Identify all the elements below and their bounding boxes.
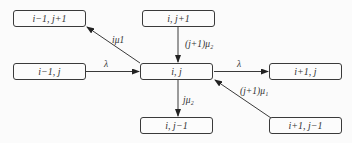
node-i-minus-1-j-plus-1: i−1, j+1: [13, 10, 86, 27]
node-i-j: i, j: [140, 63, 213, 80]
label-jp1-mu2: (j+1)μ₂: [185, 40, 213, 50]
label-j-mu2: jμ₂: [183, 96, 194, 106]
label-i-mu1: iμ1: [112, 36, 124, 46]
node-i-j-minus-1: i, j−1: [140, 117, 213, 134]
node-i-plus-1-j-minus-1: i+1, j−1: [269, 117, 342, 134]
label-lambda-right: λ: [237, 60, 241, 70]
label-jp1-mu1: (j+1)μ₁: [240, 87, 268, 97]
node-i-minus-1-j: i−1, j: [13, 63, 86, 80]
node-i-plus-1-j: i+1, j: [269, 63, 342, 80]
node-i-j-plus-1: i, j+1: [142, 10, 215, 27]
label-lambda-left: λ: [104, 60, 108, 70]
